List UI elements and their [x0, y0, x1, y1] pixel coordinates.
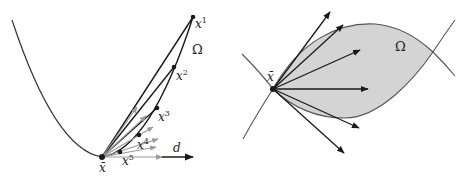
- label-x4-sup: 4: [144, 137, 149, 146]
- point-x4: [137, 133, 142, 138]
- diagram-canvas: x1 x2 x3 x4 x5 x̄ d Ω x̄ Ω: [0, 0, 468, 181]
- label-x5-sup: 5: [129, 153, 134, 162]
- parabola-boundary: [12, 20, 102, 157]
- boundary-curve-2-ext: [433, 20, 455, 52]
- svg-text:x3: x3: [158, 109, 170, 124]
- label-omega-right: Ω: [395, 39, 406, 54]
- right-panel: x̄ Ω: [242, 12, 455, 153]
- label-xbar-left: x̄: [99, 161, 106, 175]
- label-x2-sup: 2: [183, 68, 188, 77]
- label-x1-sup: 1: [202, 16, 207, 25]
- label-x3-sup: 3: [165, 109, 170, 118]
- feasible-region-omega: [273, 24, 433, 118]
- svg-text:x4: x4: [137, 137, 149, 152]
- svg-text:x5: x5: [122, 153, 134, 168]
- svg-text:x2: x2: [176, 68, 188, 83]
- secant-x1: [102, 17, 193, 157]
- svg-text:x1: x1: [195, 16, 207, 31]
- label-d: d: [173, 141, 181, 155]
- label-omega-left: Ω: [192, 42, 203, 57]
- label-xbar-right: x̄: [267, 70, 274, 84]
- boundary-curve-1-ext: [433, 52, 455, 76]
- boundary-curve-2: [243, 89, 273, 139]
- left-panel: x1 x2 x3 x4 x5 x̄ d Ω: [12, 15, 207, 175]
- point-xbar: [99, 154, 105, 160]
- point-xbar-right: [270, 86, 276, 92]
